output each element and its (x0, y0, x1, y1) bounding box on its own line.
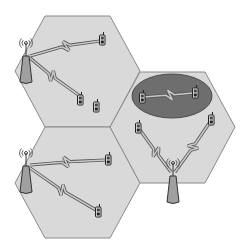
phone-screen (194, 90, 197, 93)
phone-screen (137, 125, 140, 128)
phone-keypad (107, 161, 110, 164)
cellular-network-diagram (0, 0, 245, 251)
radio-wave-icon (20, 148, 22, 157)
phone-keypad (95, 108, 98, 111)
radio-wave-icon (20, 38, 22, 47)
phone-screen (79, 97, 82, 100)
phone-screen (107, 157, 110, 160)
phone-keypad (210, 121, 213, 124)
phone-keypad (194, 94, 197, 97)
diagram-canvas (0, 0, 245, 251)
phone-screen (95, 104, 98, 107)
radio-wave-icon (29, 150, 30, 156)
phone-keypad (137, 129, 140, 132)
phone-keypad (141, 99, 144, 102)
phone-screen (97, 209, 100, 212)
phone-screen (210, 117, 213, 120)
radio-wave-icon (22, 150, 23, 156)
phone-screen (141, 95, 144, 98)
radio-wave-icon (22, 40, 23, 46)
phone-keypad (79, 101, 82, 104)
phone-keypad (97, 213, 100, 216)
phone-screen (101, 37, 104, 40)
phone-keypad (101, 41, 104, 44)
radio-wave-icon (29, 40, 30, 46)
